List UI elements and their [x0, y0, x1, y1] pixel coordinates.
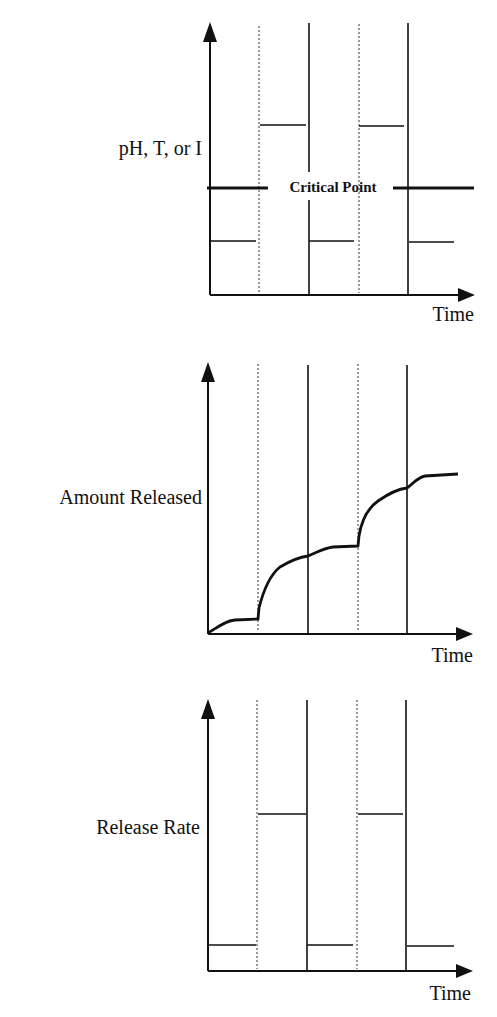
- panel-amount-released: Amount Released Time: [59, 362, 473, 666]
- x-axis-label: Time: [431, 644, 473, 666]
- panel-stimulus: Critical Point pH, T, or I Time: [119, 22, 475, 325]
- x-axis-arrow-icon: [456, 964, 473, 978]
- y-axis-arrow-icon: [201, 362, 215, 382]
- y-axis-label: Amount Released: [59, 486, 202, 508]
- x-axis-label: Time: [429, 982, 471, 1004]
- panel-release-rate: Release Rate Time: [96, 699, 473, 1004]
- pulsatile-release-diagram: Critical Point pH, T, or I Time Amount R…: [0, 0, 497, 1017]
- x-axis-label: Time: [432, 303, 474, 325]
- amount-released-curve: [208, 474, 458, 633]
- y-axis-label: pH, T, or I: [119, 137, 202, 160]
- x-axis-arrow-icon: [458, 288, 475, 302]
- critical-point-label: Critical Point: [289, 179, 376, 195]
- y-axis-arrow-icon: [201, 699, 215, 719]
- x-axis-arrow-icon: [456, 627, 473, 641]
- y-axis-arrow-icon: [203, 22, 217, 42]
- y-axis-label: Release Rate: [96, 816, 200, 838]
